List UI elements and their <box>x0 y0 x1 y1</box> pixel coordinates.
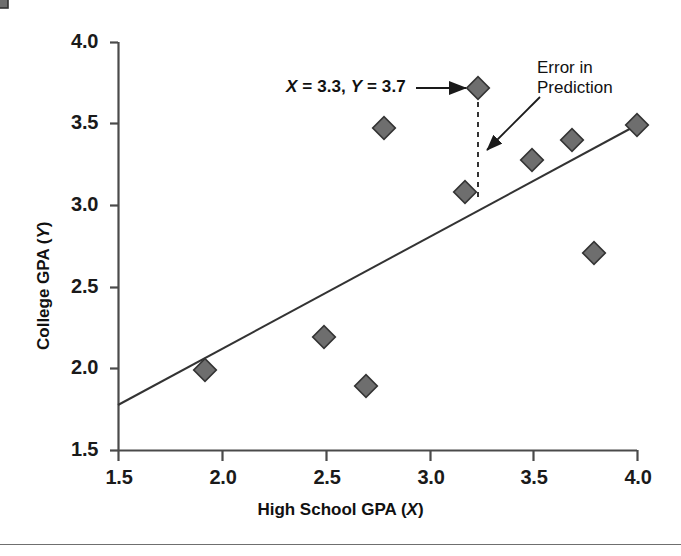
data-points-fix <box>373 117 396 140</box>
x-tick-label: 2.0 <box>193 466 253 489</box>
y-tick-label: 3.5 <box>42 111 98 134</box>
axis-spines <box>118 42 637 451</box>
data-point <box>0 0 8 8</box>
x-tick-label: 3.5 <box>504 466 564 489</box>
x-axis-title-suffix: ) <box>418 500 424 519</box>
y-tick-label: 4.0 <box>42 30 98 53</box>
data-point <box>561 129 584 152</box>
y-axis-title: College GPA (Y) <box>34 222 54 350</box>
annotation-x-variable: X <box>286 77 297 96</box>
x-axis-title-prefix: High School GPA ( <box>257 500 406 519</box>
x-tick-label: 2.5 <box>297 466 357 489</box>
error-annotation-line1: Error in <box>537 58 593 77</box>
y-tick-label: 2.0 <box>42 356 98 379</box>
x-tick-label: 1.5 <box>89 466 149 489</box>
error-in-prediction-annotation: Error inPrediction <box>537 58 667 98</box>
y-axis-title-variable: Y <box>34 227 53 238</box>
data-point <box>313 326 336 349</box>
x-tick-label: 4.0 <box>608 466 668 489</box>
x-axis-title: High School GPA (X) <box>0 500 681 520</box>
x-axis-title-variable: X <box>407 500 418 519</box>
y-axis-ticks <box>110 43 118 451</box>
data-point <box>583 242 606 265</box>
data-point <box>355 375 378 398</box>
annotation-x-value: = 3.3, <box>297 77 350 96</box>
scatter-plot-figure: 4.0 3.5 3.0 2.5 2.0 1.5 1.5 2.0 2.5 3.0 … <box>0 0 681 556</box>
x-axis-ticks <box>119 450 638 461</box>
regression-line <box>118 125 637 405</box>
error-annotation-arrow <box>487 97 540 150</box>
y-axis-title-suffix: ) <box>34 222 53 228</box>
annotation-y-value: = 3.7 <box>362 77 406 96</box>
data-point <box>373 117 396 140</box>
data-point-highlight <box>467 77 490 100</box>
data-point <box>521 149 544 172</box>
x-tick-label: 3.0 <box>401 466 461 489</box>
annotation-y-variable: Y <box>351 77 362 96</box>
page-bottom-rule <box>0 544 681 545</box>
point-value-annotation: X = 3.3, Y = 3.7 <box>286 77 406 97</box>
error-annotation-line2: Prediction <box>537 78 613 97</box>
y-tick-label: 3.0 <box>42 193 98 216</box>
data-point <box>626 114 649 137</box>
y-axis-title-prefix: College GPA ( <box>34 239 53 350</box>
data-point <box>454 181 477 204</box>
y-tick-label: 1.5 <box>42 438 98 461</box>
